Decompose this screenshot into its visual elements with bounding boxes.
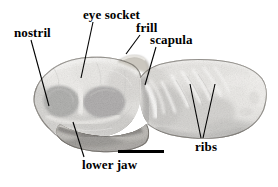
leader-scapula [145,47,156,85]
label-lower-jaw: lower jaw [82,158,137,171]
scale-bar [118,150,164,153]
label-ribs: ribs [195,140,217,153]
leader-ribs-lower [203,84,215,138]
figure-container: nostril eye socket frill scapula ribs lo… [0,0,278,187]
leader-lower-jaw [73,122,84,157]
leader-eye-socket [81,22,93,78]
leader-frill [126,35,140,54]
leader-ribs-upper [190,84,201,138]
label-scapula: scapula [150,33,193,46]
label-nostril: nostril [14,26,51,39]
label-eye-socket: eye socket [83,8,140,21]
leader-nostril [31,40,49,106]
